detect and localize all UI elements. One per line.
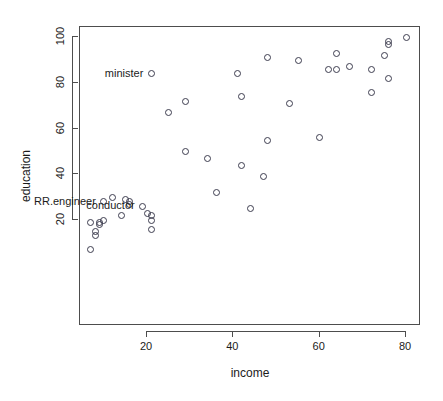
x-axis-tick-label: 60 (313, 340, 325, 352)
data-point (368, 66, 375, 73)
data-point (295, 57, 302, 64)
data-point (87, 246, 94, 253)
y-axis-tick-label: 20 (54, 213, 66, 225)
data-point (148, 226, 155, 233)
y-axis-tick-label: 40 (54, 167, 66, 179)
data-point (346, 63, 353, 70)
y-axis-tick-label: 100 (54, 27, 66, 45)
data-point (247, 205, 254, 212)
data-point (139, 203, 146, 210)
x-axis-title: income (231, 366, 270, 380)
data-point (385, 41, 392, 48)
point-label-minister: minister (105, 67, 144, 79)
data-point (264, 137, 271, 144)
data-point (148, 70, 155, 77)
data-point (286, 100, 293, 107)
data-point (92, 232, 99, 239)
data-point (403, 34, 410, 41)
data-point (333, 50, 340, 57)
x-axis-tick-label: 20 (140, 340, 152, 352)
y-axis-tick (72, 219, 78, 220)
data-point (238, 93, 245, 100)
scatter-plot-figure: income education 20406080 20406080100 mi… (0, 0, 443, 401)
data-point (316, 134, 323, 141)
data-point (385, 75, 392, 82)
y-axis-tick-label: 80 (54, 76, 66, 88)
x-axis-tick-label: 40 (226, 340, 238, 352)
data-point (118, 212, 125, 219)
data-point (368, 89, 375, 96)
data-point (87, 219, 94, 226)
point-label-rr-engineer: RR.engineer (34, 195, 96, 207)
data-point (144, 210, 151, 217)
data-point (381, 52, 388, 59)
data-point (264, 54, 271, 61)
data-point (333, 66, 340, 73)
y-axis-tick-label: 60 (54, 122, 66, 134)
data-point (213, 189, 220, 196)
x-axis-line (146, 331, 405, 332)
data-point (96, 219, 103, 226)
data-point (234, 70, 241, 77)
data-point (165, 109, 172, 116)
x-axis-tick-label: 80 (399, 340, 411, 352)
data-point (238, 162, 245, 169)
y-axis-line (72, 36, 73, 219)
data-point (182, 98, 189, 105)
data-point (325, 66, 332, 73)
data-point (204, 155, 211, 162)
data-point (260, 173, 267, 180)
x-axis-tick (405, 331, 406, 337)
y-axis-title: education (19, 150, 33, 202)
data-point (182, 148, 189, 155)
